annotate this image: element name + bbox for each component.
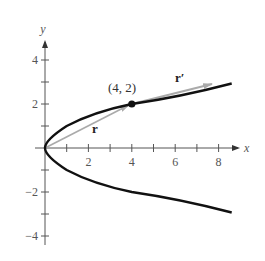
x-tick-label: 8 (216, 155, 222, 169)
y-tick-label: 4 (32, 53, 38, 67)
y-tick-label: 2 (32, 97, 38, 111)
y-axis: 4 2 −2 −4 y (25, 22, 49, 245)
y-tick-label: −4 (25, 229, 38, 243)
parabola-figure: 2 4 6 8 x 4 2 −2 −4 y (4, 2) r r′ (0, 0, 265, 261)
x-tick-label: 2 (85, 155, 91, 169)
x-axis-label: x (243, 141, 250, 155)
point-label: (4, 2) (108, 80, 136, 95)
x-tick-label: 6 (172, 155, 178, 169)
y-tick-label: −2 (25, 185, 38, 199)
vector-r-prime-label: r′ (175, 70, 184, 85)
x-axis: 2 4 6 8 x (35, 141, 250, 169)
x-tick-label: 4 (129, 155, 135, 169)
y-axis-label: y (39, 22, 46, 36)
vector-r-label: r (92, 121, 98, 136)
point-marker (128, 100, 135, 107)
vector-r (45, 105, 129, 148)
